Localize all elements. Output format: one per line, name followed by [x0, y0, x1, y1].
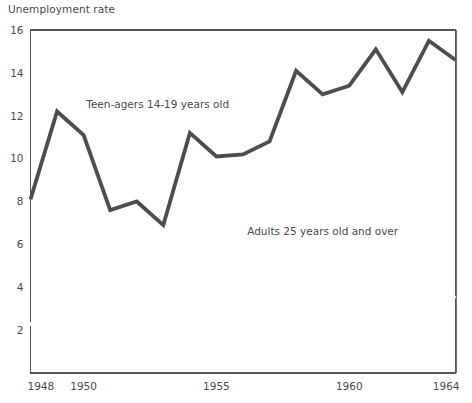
x-axis-tick-1955: 1955	[203, 380, 230, 392]
y-axis-tick-2: 2	[17, 324, 24, 336]
chart-container: Unemployment rate 246810121416 194819501…	[0, 0, 472, 403]
y-axis-tick-10: 10	[10, 152, 23, 164]
plot-frame	[31, 30, 456, 373]
annotation-teenagers: Teen-agers 14-19 years old	[85, 98, 229, 110]
y-axis-tick-6: 6	[17, 238, 24, 250]
y-axis-tick-labels: 246810121416	[10, 24, 24, 336]
x-axis-tick-1948: 1948	[28, 380, 55, 392]
unemployment-rate-chart: 246810121416 19481950195519601964 Teen-a…	[0, 0, 472, 403]
y-axis-tick-14: 14	[10, 67, 24, 79]
x-axis-tick-labels: 19481950195519601964	[28, 380, 460, 392]
y-axis-tick-4: 4	[17, 281, 24, 293]
x-axis-tick-1960: 1960	[336, 380, 363, 392]
y-axis-tick-12: 12	[10, 110, 23, 122]
x-axis-tick-1964: 1964	[433, 380, 460, 392]
annotation-adults: Adults 25 years old and over	[247, 225, 399, 237]
y-axis-tick-8: 8	[17, 195, 24, 207]
y-axis-tick-16: 16	[10, 24, 24, 36]
x-axis-tick-1950: 1950	[70, 380, 97, 392]
